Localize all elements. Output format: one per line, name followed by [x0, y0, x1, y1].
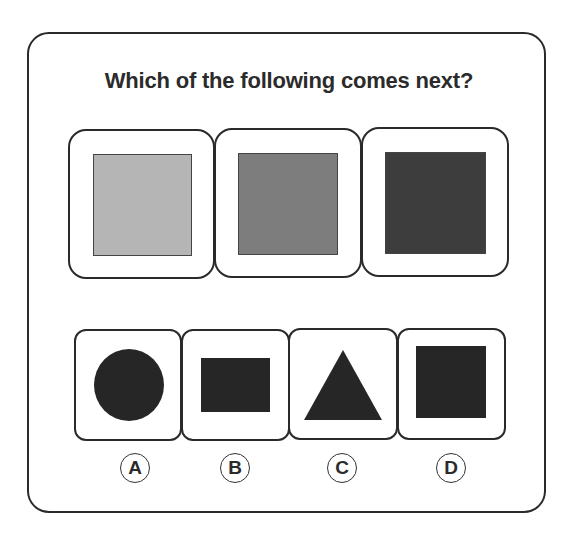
option-c-box[interactable]: [288, 328, 398, 440]
triangle-icon: [290, 330, 400, 442]
option-c-label[interactable]: C: [327, 453, 357, 483]
question-title: Which of the following comes next?: [0, 68, 578, 94]
option-d-label[interactable]: D: [436, 453, 466, 483]
medium-gray-square: [238, 153, 338, 255]
option-a-label[interactable]: A: [120, 453, 150, 483]
option-b-label[interactable]: B: [220, 453, 250, 483]
option-b-box[interactable]: [181, 329, 290, 441]
rectangle-icon: [201, 358, 270, 412]
circle-icon: [94, 349, 164, 421]
sequence-item-1: [68, 129, 215, 279]
light-gray-square: [93, 154, 192, 256]
sequence-item-2: [214, 128, 362, 278]
square-icon: [416, 346, 486, 418]
sequence-item-3: [361, 127, 509, 277]
dark-gray-square: [385, 152, 486, 254]
option-a-box[interactable]: [74, 329, 182, 441]
option-d-box[interactable]: [397, 328, 506, 440]
